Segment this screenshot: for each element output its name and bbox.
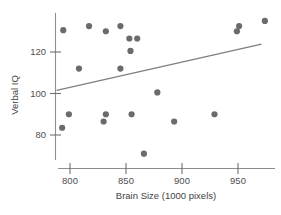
data-point: [211, 111, 217, 117]
x-tick-label-850: 850: [118, 175, 134, 186]
data-point: [126, 35, 132, 41]
x-tick-label-950: 950: [230, 175, 246, 186]
data-point: [59, 125, 65, 131]
data-point: [236, 23, 242, 29]
y-tick-label-120: 120: [30, 46, 46, 57]
x-tick-label-800: 800: [62, 175, 78, 186]
x-axis-group: 800850900950 Brain Size (1000 pixels): [58, 163, 275, 201]
y-axis-title: Verbal IQ: [9, 75, 20, 115]
data-point: [66, 111, 72, 117]
data-point: [171, 118, 177, 124]
y-axis-group: 80100120 Verbal IQ: [9, 13, 61, 160]
data-point: [129, 111, 135, 117]
data-point: [134, 35, 140, 41]
data-point: [101, 118, 107, 124]
data-point: [103, 28, 109, 34]
y-tick-label-group: 80100120: [30, 46, 46, 140]
data-point: [127, 48, 133, 54]
x-tick-label-group: 800850900950: [62, 175, 246, 186]
x-tick-label-900: 900: [174, 175, 190, 186]
y-tick-label-100: 100: [30, 88, 46, 99]
data-point: [76, 66, 82, 72]
data-point: [60, 27, 66, 33]
trendline-group: [57, 44, 262, 90]
data-point: [117, 66, 123, 72]
scatter-plot-figure: 80100120 Verbal IQ 800850900950 Brain Si…: [0, 0, 281, 215]
data-point: [103, 111, 109, 117]
data-point: [154, 89, 160, 95]
data-point: [117, 23, 123, 29]
x-axis-title: Brain Size (1000 pixels): [116, 190, 216, 201]
data-point: [86, 23, 92, 29]
y-tick-label-80: 80: [35, 129, 46, 140]
data-points-group: [59, 18, 268, 157]
data-point: [141, 151, 147, 157]
data-point: [262, 18, 268, 24]
plot-canvas: 80100120 Verbal IQ 800850900950 Brain Si…: [0, 0, 281, 215]
trendline: [57, 44, 262, 90]
